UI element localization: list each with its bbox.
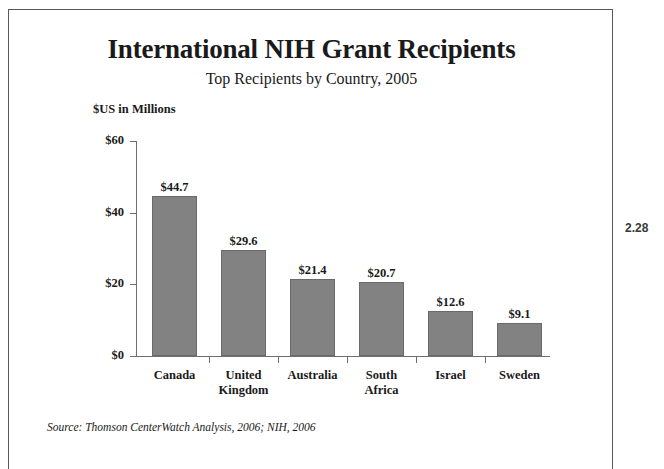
x-axis-tick	[485, 357, 486, 363]
chart-title: International NIH Grant Recipients	[9, 34, 614, 65]
page-frame: International NIH Grant Recipients Top R…	[8, 9, 613, 469]
y-axis-tick: $60	[130, 141, 137, 142]
bar[interactable]: $20.7	[359, 282, 404, 356]
y-axis-tick-label: $0	[112, 348, 125, 363]
x-axis-tick	[347, 357, 348, 363]
bar[interactable]: $29.6	[221, 250, 266, 356]
chart-subtitle: Top Recipients by Country, 2005	[9, 70, 614, 88]
y-axis-tick: $20	[130, 284, 137, 285]
x-axis-line	[136, 356, 550, 357]
y-axis-title: $US in Millions	[93, 102, 176, 117]
x-axis-tick	[416, 357, 417, 363]
x-axis-category-label: Canada	[140, 368, 209, 383]
x-axis-category-label: United Kingdom	[209, 368, 278, 398]
x-axis-category-label: Sweden	[485, 368, 554, 383]
bar[interactable]: $44.7	[152, 196, 197, 356]
y-axis-tick: $0	[130, 356, 137, 357]
x-axis-category-label: Israel	[416, 368, 485, 383]
bar[interactable]: $21.4	[290, 279, 335, 356]
margin-note: 2.28	[625, 221, 648, 235]
bar-value-label: $20.7	[367, 266, 395, 281]
x-axis-category-label: Australia	[278, 368, 347, 383]
plot-area: $60$40$20$0 $44.7$29.6$21.4$20.7$12.6$9.…	[128, 132, 550, 364]
y-axis-tick-label: $20	[105, 276, 124, 291]
bar[interactable]: $9.1	[497, 323, 542, 356]
y-axis-tick-label: $40	[105, 205, 124, 220]
source-note: Source: Thomson CenterWatch Analysis, 20…	[47, 421, 316, 433]
y-axis-tick: $40	[130, 213, 137, 214]
y-axis-line	[136, 141, 137, 357]
bar-value-label: $29.6	[229, 234, 257, 249]
bar-value-label: $44.7	[160, 180, 188, 195]
bar-value-label: $12.6	[436, 295, 464, 310]
bar-value-label: $21.4	[298, 263, 326, 278]
x-axis-tick	[278, 357, 279, 363]
bar-value-label: $9.1	[509, 307, 531, 322]
x-axis-category-label: South Africa	[347, 368, 416, 398]
y-axis-tick-label: $60	[105, 133, 124, 148]
x-axis-tick	[209, 357, 210, 363]
bar[interactable]: $12.6	[428, 311, 473, 356]
